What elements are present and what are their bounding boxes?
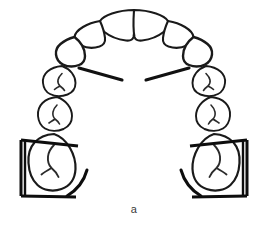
tooth-first-premolar-left (43, 66, 76, 96)
tooth-first-premolar-right (193, 66, 226, 96)
tooth-second-premolar-left (38, 97, 72, 131)
tooth-canine-right (183, 37, 212, 66)
dental-arch-figure: a (0, 0, 268, 229)
figure-caption: a (0, 203, 268, 216)
reference-line-left (79, 68, 122, 80)
dental-arch-diagram (0, 0, 268, 229)
tooth-second-premolar-right (196, 97, 230, 131)
reference-line-right (146, 68, 189, 80)
tooth-canine-left (56, 37, 85, 66)
